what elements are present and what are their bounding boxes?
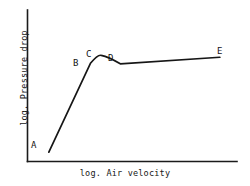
point-label-e: E xyxy=(217,46,222,56)
y-axis-title: log. Pressure drop xyxy=(19,8,29,148)
data-curve xyxy=(49,55,220,152)
plot-area: A B C D E xyxy=(0,0,250,186)
point-label-d: D xyxy=(108,53,113,63)
chart-figure: A B C D E log. Air velocity log. Pressur… xyxy=(0,0,250,186)
point-label-a: A xyxy=(31,140,37,150)
x-axis-title: log. Air velocity xyxy=(0,168,250,178)
point-label-c: C xyxy=(86,49,91,59)
point-label-b: B xyxy=(73,58,78,68)
